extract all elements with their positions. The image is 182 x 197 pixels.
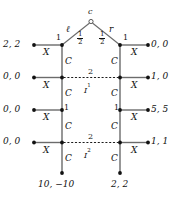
player-label-left-node-1: 1 xyxy=(56,34,61,42)
action-label-left-exit-4: X xyxy=(43,146,49,155)
action-label-left-continue-4: C xyxy=(65,154,72,163)
action-label-left-exit-1: X xyxy=(43,48,49,57)
action-label-right-exit-3: X xyxy=(131,113,137,122)
terminal-node-left-1 xyxy=(32,43,36,47)
action-label-right-continue-3: C xyxy=(111,122,118,131)
infoset-name-sup-I2: 2 xyxy=(87,147,91,153)
chance-action-label-left: ℓ xyxy=(66,25,70,34)
chance-prob-left-den: 2 xyxy=(77,39,83,46)
action-label-left-continue-2: C xyxy=(65,89,72,98)
payoff-left-2: 0, 0 xyxy=(3,72,20,81)
payoff-right-4: 1, 1 xyxy=(151,137,168,146)
payoff-left-1: 2, 2 xyxy=(3,40,20,49)
terminal-node-left-2 xyxy=(32,76,36,80)
decision-node-left-2 xyxy=(60,76,64,80)
payoff-left-3: 0, 0 xyxy=(3,105,20,114)
payoff-right-2: 1, 0 xyxy=(151,72,168,81)
player-label-left-node-3: 1 xyxy=(64,104,69,112)
action-label-left-exit-2: X xyxy=(43,81,49,90)
decision-node-left-1 xyxy=(60,43,64,47)
player-label-right-node-3: 1 xyxy=(114,104,119,112)
decision-node-right-1 xyxy=(118,43,122,47)
chance-edge-right-r xyxy=(92,23,120,45)
action-label-right-continue-2: C xyxy=(111,89,118,98)
action-label-right-continue-1: C xyxy=(111,57,118,66)
action-label-right-exit-4: X xyxy=(131,146,137,155)
infoset-player-label-I2: 2 xyxy=(88,133,93,141)
action-label-right-continue-4: C xyxy=(111,154,118,163)
terminal-node-right-2 xyxy=(146,76,150,80)
decision-node-right-4 xyxy=(118,141,122,145)
action-label-left-continue-1: C xyxy=(65,57,72,66)
chance-node-label: c xyxy=(88,8,92,16)
action-label-left-exit-3: X xyxy=(43,113,49,122)
terminal-node-right-1 xyxy=(146,43,150,47)
payoff-left-4: 0, 0 xyxy=(3,137,20,146)
infoset-player-label-I1: 2 xyxy=(88,68,93,76)
action-label-right-exit-2: X xyxy=(131,81,137,90)
action-label-right-exit-1: X xyxy=(131,48,137,57)
payoff-bottom-left: 10, −10 xyxy=(38,180,74,189)
chance-probability-left: 12 xyxy=(77,30,83,46)
chance-probability-right: 12 xyxy=(99,30,105,46)
infoset-name-I1: I1 xyxy=(84,80,91,96)
player-label-right-node-1: 1 xyxy=(123,34,128,42)
infoset-name-I2: I2 xyxy=(84,145,91,161)
terminal-node-bottom-right xyxy=(118,171,122,175)
terminal-node-right-4 xyxy=(146,141,150,145)
terminal-node-right-3 xyxy=(146,108,150,112)
terminal-node-left-3 xyxy=(32,108,36,112)
payoff-right-3: 5, 5 xyxy=(151,105,168,114)
chance-action-label-right: r xyxy=(109,25,113,34)
game-tree-canvas xyxy=(0,0,182,197)
decision-node-left-4 xyxy=(60,141,64,145)
payoff-bottom-right: 2, 2 xyxy=(111,180,128,189)
infoset-name-sup-I1: 1 xyxy=(87,82,91,88)
action-label-left-continue-3: C xyxy=(65,122,72,131)
terminal-node-bottom-left xyxy=(60,171,64,175)
terminal-node-left-4 xyxy=(32,141,36,145)
payoff-right-1: 0, 0 xyxy=(151,40,168,49)
decision-node-right-2 xyxy=(118,76,122,80)
chance-prob-right-den: 2 xyxy=(99,39,105,46)
